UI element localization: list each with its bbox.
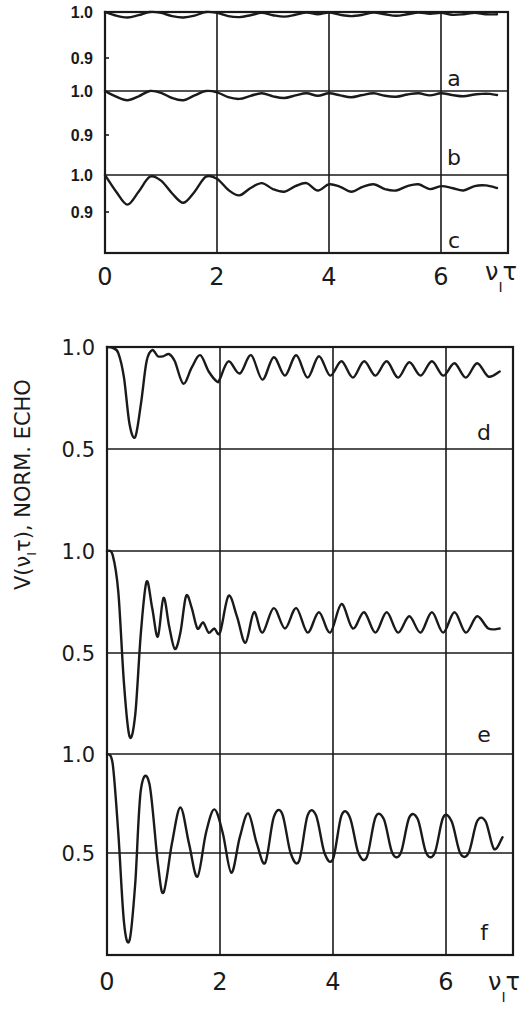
x-tick-label: 0 xyxy=(97,263,112,291)
y-tick-label: 1.0 xyxy=(71,167,93,184)
figure: 0246νIτ1.00.9a1.00.9b1.00.9c 0246νIτ1.00… xyxy=(0,0,530,1016)
x-axis-label: νIτ xyxy=(485,258,517,295)
x-tick-label: 2 xyxy=(209,263,224,291)
y-axis-title-text: V(νIτ), NORM. ECHO xyxy=(11,379,39,590)
y-tick-label: 0.5 xyxy=(62,842,95,866)
panel-label: d xyxy=(477,420,491,445)
y-tick-label: 1.0 xyxy=(71,83,93,100)
y-tick-label: 0.9 xyxy=(71,50,93,67)
panel-label: e xyxy=(477,722,491,747)
x-tick-label: 4 xyxy=(325,968,340,996)
curve-e xyxy=(107,551,500,738)
panel-c: 1.00.9c xyxy=(71,167,508,253)
x-axis-label: νIτ xyxy=(488,968,520,1005)
x-tick-label: 0 xyxy=(99,968,114,996)
panel-label: c xyxy=(448,228,460,253)
top-figure: 0246νIτ1.00.9a1.00.9b1.00.9c xyxy=(71,4,517,295)
curve-f xyxy=(107,754,503,943)
y-tick-label: 1.0 xyxy=(62,336,95,360)
curve-a xyxy=(105,12,497,18)
x-tick-label: 6 xyxy=(433,263,448,291)
y-tick-label: 1.0 xyxy=(71,4,93,21)
y-tick-label: 0.5 xyxy=(62,642,95,666)
curve-c xyxy=(105,175,497,205)
panel-b: 1.00.9b xyxy=(71,83,508,170)
y-tick-label: 0.9 xyxy=(71,204,93,221)
panel-label: b xyxy=(447,145,461,170)
x-tick-label: 4 xyxy=(321,263,336,291)
y-tick-label: 1.0 xyxy=(62,540,95,564)
y-tick-label: 1.0 xyxy=(62,743,95,767)
panel-a: 1.00.9a xyxy=(71,4,508,91)
curve-b xyxy=(105,91,497,100)
plot-frame xyxy=(105,12,508,253)
curve-d xyxy=(107,347,500,438)
panel-label: a xyxy=(447,66,460,91)
x-tick-label: 2 xyxy=(212,968,227,996)
panel-label: f xyxy=(480,920,489,945)
y-tick-label: 0.9 xyxy=(71,127,93,144)
x-tick-label: 6 xyxy=(438,968,453,996)
bottom-figure: 0246νIτ1.00.5d1.00.5e1.00.5f xyxy=(62,336,520,1005)
y-tick-label: 0.5 xyxy=(62,438,95,462)
y-axis-title: V(νIτ), NORM. ECHO xyxy=(11,379,39,590)
